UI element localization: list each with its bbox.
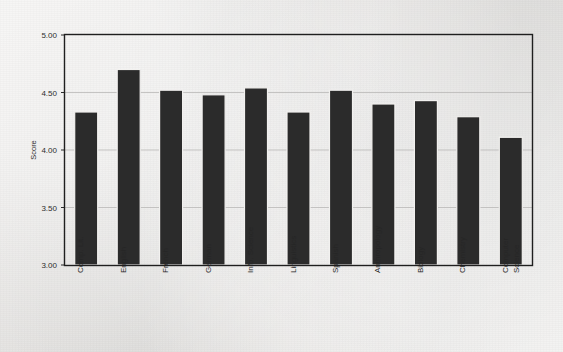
bar [202,95,225,265]
x-category-label: Linguistics [289,236,298,273]
x-category-label: Spanish [331,244,340,273]
x-category-label: Info. Science [246,226,255,273]
bars [75,70,523,266]
x-category-label: Biology [416,247,425,273]
bar [160,90,183,265]
y-tick-label: 3.50 [41,204,57,213]
x-category-label: English [119,247,128,273]
x-category-label: Computer [501,238,510,273]
y-tick-label: 5.00 [41,31,57,40]
x-category-label: Anthropology [373,226,382,273]
y-tick-label: 3.00 [41,261,57,270]
y-tick-label: 4.50 [41,89,57,98]
y-axis-ticks: 5.004.504.003.503.00 [41,31,65,270]
x-category-label: Science [512,244,521,273]
x-category-label: German [204,244,213,273]
bar-chart: 5.004.504.003.503.00 Comp. Lit.EnglishFr… [0,0,563,352]
y-axis-title: Score [29,140,38,160]
bar [414,101,437,265]
bar [117,70,140,266]
x-category-label: Chemistry [458,237,467,273]
y-tick-label: 4.00 [41,146,57,155]
x-category-label: French [161,248,170,273]
x-category-label: Comp. Lit. [76,237,85,273]
bar [330,90,353,265]
